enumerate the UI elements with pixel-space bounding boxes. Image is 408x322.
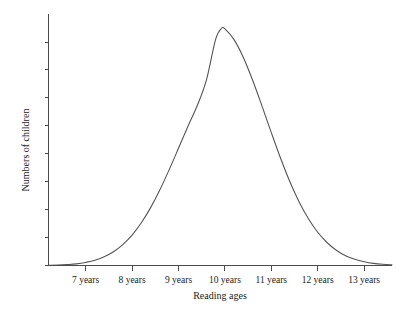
x-axis-tick-label: 7 years xyxy=(72,275,99,285)
x-axis-tick-label: 8 years xyxy=(119,275,146,285)
x-axis-tick-label: 11 years xyxy=(256,275,288,285)
y-axis-ticks xyxy=(45,42,49,266)
x-axis: 7 years8 years9 years10 years11 years12 … xyxy=(49,266,393,302)
x-axis-tick-labels: 7 years8 years9 years10 years11 years12 … xyxy=(72,275,380,285)
x-axis-title: Reading ages xyxy=(193,290,247,301)
x-axis-tick-label: 12 years xyxy=(302,275,334,285)
x-axis-ticks xyxy=(86,266,365,271)
y-axis: Numbers of children xyxy=(20,14,48,266)
chart-canvas: Numbers of children 7 years8 years9 year… xyxy=(0,0,408,322)
chart-figure: Numbers of children 7 years8 years9 year… xyxy=(0,0,408,322)
x-axis-tick-label: 10 years xyxy=(209,275,241,285)
plot-area xyxy=(49,27,393,265)
bell-curve-line xyxy=(49,27,393,265)
x-axis-tick-label: 9 years xyxy=(165,275,192,285)
x-axis-tick-label: 13 years xyxy=(348,275,380,285)
y-axis-title: Numbers of children xyxy=(20,109,31,192)
